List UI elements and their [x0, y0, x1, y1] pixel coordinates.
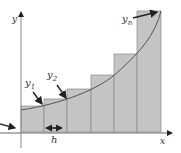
- h-label: h: [51, 134, 57, 145]
- riemann-sum-diagram: y x y1 y2 yn h: [0, 0, 181, 153]
- y1-label: y1: [24, 77, 35, 91]
- left-arrow-icon: [0, 124, 15, 128]
- x-axis-label: x: [160, 136, 165, 146]
- rectangle-5: [114, 54, 137, 132]
- y1-arrow-icon: [33, 92, 42, 104]
- yn-label: yn: [121, 13, 133, 27]
- y2-label: y2: [46, 69, 58, 83]
- y2-arrow-icon: [57, 85, 66, 98]
- rectangle-2: [44, 99, 67, 132]
- rectangle-3: [67, 89, 91, 132]
- rectangles: [21, 11, 161, 132]
- y-axis-label: y: [11, 14, 18, 24]
- rectangle-6: [137, 11, 161, 132]
